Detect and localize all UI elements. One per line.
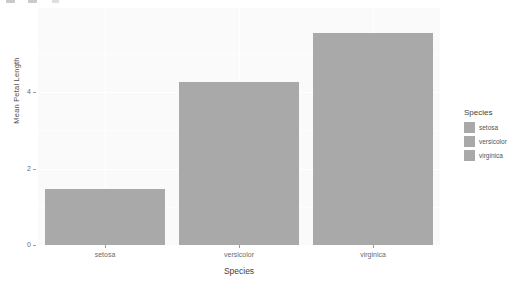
legend-label-setosa: setosa: [479, 124, 498, 131]
y-axis: 024: [0, 8, 38, 245]
y-tick-mark: [33, 92, 36, 93]
y-tick-mark: [33, 245, 36, 246]
bar-chart: Mean Petal Length 024 setosaversicolorvi…: [0, 0, 521, 286]
y-tick-mark: [33, 169, 36, 170]
bar-versicolor[interactable]: [179, 82, 300, 245]
bar-virginica[interactable]: [313, 33, 434, 245]
plot-panel: [38, 8, 440, 245]
legend: Species setosaversicolorvirginica: [464, 108, 521, 163]
legend-item-setosa[interactable]: setosa: [464, 121, 521, 134]
x-tick-mark: [239, 245, 240, 248]
x-tick-mark: [105, 245, 106, 248]
legend-title: Species: [464, 108, 521, 117]
x-tick-label-virginica: virginica: [328, 251, 418, 258]
legend-swatch-virginica: [464, 150, 475, 161]
legend-label-versicolor: versicolor: [479, 138, 507, 145]
x-tick-label-setosa: setosa: [60, 251, 150, 258]
legend-label-virginica: virginica: [479, 152, 503, 159]
y-tick-label: 4: [9, 88, 31, 95]
legend-swatch-setosa: [464, 122, 475, 133]
legend-item-versicolor[interactable]: versicolor: [464, 135, 521, 148]
legend-swatch-versicolor: [464, 136, 475, 147]
x-axis-title: Species: [38, 266, 440, 276]
bar-setosa[interactable]: [45, 189, 166, 245]
legend-item-virginica[interactable]: virginica: [464, 149, 521, 162]
x-tick-mark: [373, 245, 374, 248]
y-tick-label: 0: [9, 241, 31, 248]
legend-entries: setosaversicolorvirginica: [464, 121, 521, 162]
x-axis: setosaversicolorvirginica: [38, 245, 440, 265]
x-tick-label-versicolor: versicolor: [194, 251, 284, 258]
y-tick-label: 2: [9, 165, 31, 172]
